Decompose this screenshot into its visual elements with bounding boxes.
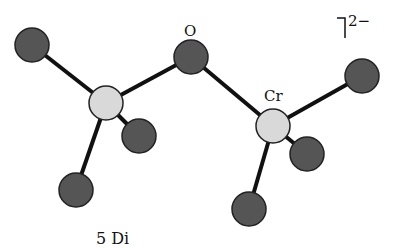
chromium-atom-Cr2	[256, 109, 290, 143]
charge-label: 2−	[348, 14, 370, 29]
oxygen-atom-O1c	[59, 173, 93, 207]
oxygen-atom-O_bridge	[174, 40, 208, 74]
oxygen-atom-O2c	[232, 192, 266, 226]
oxygen-atom-O2a	[345, 59, 379, 93]
bracket-icon	[337, 18, 345, 38]
oxygen-atom-O1a	[15, 28, 49, 62]
oxygen-atom-O2b	[290, 137, 324, 171]
oxygen-atom-O1b	[122, 119, 156, 153]
oxygen-label: O	[184, 24, 196, 39]
chromium-atom-Cr1	[89, 86, 123, 120]
chromium-label: Cr	[264, 89, 283, 104]
atoms	[15, 28, 379, 226]
figure-caption: 5 Di	[96, 229, 129, 248]
